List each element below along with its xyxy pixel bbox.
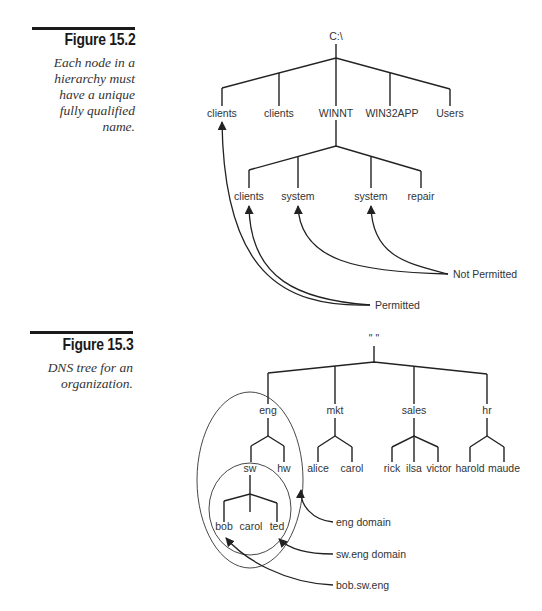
arrow-not-permitted-system-b — [371, 206, 448, 274]
arrow-not-permitted-system-a — [298, 206, 448, 274]
node-bob: bob — [215, 520, 233, 532]
node-eng: eng — [259, 404, 277, 416]
node-clients: clients — [234, 190, 264, 202]
filesystem-arrows — [222, 122, 448, 305]
dns-arrows — [226, 490, 333, 585]
node-harold: harold — [455, 462, 484, 474]
node-rick: rick — [384, 462, 401, 474]
node-system: system — [354, 190, 388, 202]
label-eng-domain: eng domain — [336, 516, 391, 528]
node-hr: hr — [482, 404, 492, 416]
node-sales: sales — [402, 404, 427, 416]
node-hw: hw — [277, 462, 291, 474]
node-sw: sw — [244, 462, 257, 474]
node-ted: ted — [270, 520, 285, 532]
dns-callouts: eng domain sw.eng domain bob.sw.eng — [336, 516, 406, 591]
node-maude: maude — [488, 462, 520, 474]
node-ilsa: ilsa — [406, 462, 422, 474]
node-dns-root: " " — [369, 332, 380, 344]
node-alice: alice — [307, 462, 329, 474]
node-win32app: WIN32APP — [365, 107, 418, 119]
arrow-eng-domain — [301, 490, 333, 522]
node-repair: repair — [408, 190, 435, 202]
label-not-permitted: Not Permitted — [453, 268, 517, 280]
node-carol: carol — [341, 462, 364, 474]
node-root: C:\ — [329, 30, 343, 42]
node-mkt: mkt — [327, 404, 344, 416]
label-permitted: Permitted — [375, 299, 420, 311]
arrow-bob-fqdn — [226, 538, 333, 585]
diagrams-canvas: C:\ clients clients WINNT WIN32APP Users… — [0, 0, 542, 611]
label-sw-eng-domain: sw.eng domain — [336, 548, 406, 560]
node-winnt: WINNT — [319, 107, 354, 119]
arrow-sw-eng-domain — [279, 539, 333, 554]
dns-tree — [224, 346, 504, 522]
node-system: system — [281, 190, 315, 202]
label-bob-fqdn: bob.sw.eng — [336, 579, 389, 591]
node-victor: victor — [426, 462, 452, 474]
arrow-permitted-clients-winnt — [249, 206, 370, 305]
node-clients: clients — [264, 107, 294, 119]
node-users: Users — [436, 107, 463, 119]
node-carol: carol — [240, 520, 263, 532]
node-clients: clients — [207, 107, 237, 119]
